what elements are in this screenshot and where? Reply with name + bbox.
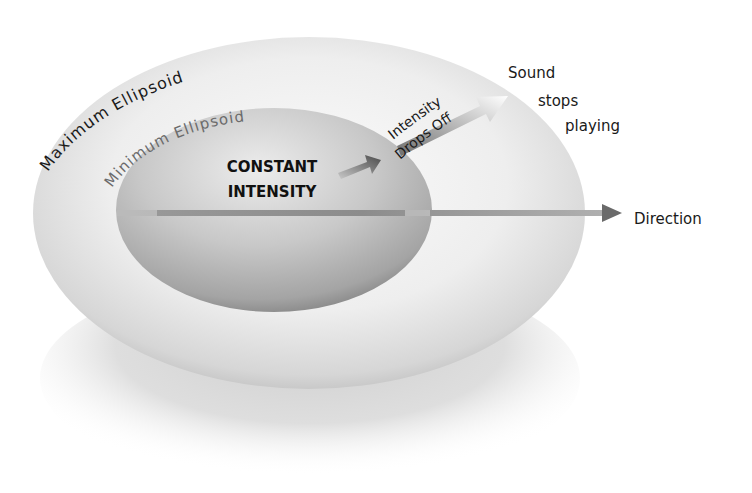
sound-stops-label-line2: stops	[538, 92, 578, 110]
sound-cone-diagram: Maximum Ellipsoid Minimum Ellipsoid CONS…	[0, 0, 752, 493]
direction-axis-line	[117, 210, 607, 216]
sound-stops-label-line3: playing	[565, 117, 620, 135]
constant-label-line1: CONSTANT	[227, 158, 318, 176]
direction-arrowhead-icon	[602, 204, 622, 222]
sound-stops-label-line1: Sound	[508, 64, 555, 82]
constant-label-line2: INTENSITY	[228, 183, 318, 201]
direction-label: Direction	[634, 210, 702, 228]
